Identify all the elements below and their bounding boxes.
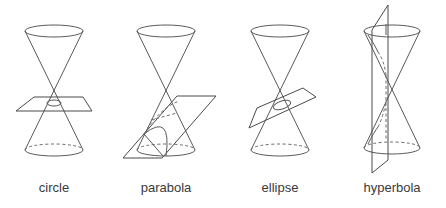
label-circle: circle bbox=[39, 180, 69, 195]
label-parabola: parabola bbox=[141, 180, 192, 195]
parabola-figure bbox=[123, 25, 216, 158]
label-hyperbola: hyperbola bbox=[363, 180, 420, 195]
ellipse-figure bbox=[249, 25, 316, 156]
conic-sections-diagram bbox=[0, 0, 446, 208]
circle-figure bbox=[16, 25, 92, 156]
hyperbola-figure bbox=[364, 5, 420, 173]
label-ellipse: ellipse bbox=[262, 180, 299, 195]
